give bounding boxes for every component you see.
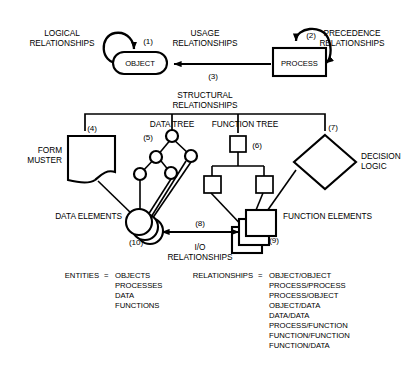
io-relationships-label: I/O RELATIONSHIPS xyxy=(167,242,233,262)
svg-text:MUSTER: MUSTER xyxy=(27,155,62,165)
svg-text:(6): (6) xyxy=(252,141,262,150)
structural-relationships-title: STRUCTURAL RELATIONSHIPS xyxy=(172,90,238,110)
svg-text:(10): (10) xyxy=(129,238,144,247)
svg-text:(3): (3) xyxy=(208,72,218,81)
form-muster-label: FORM MUSTER xyxy=(27,145,62,165)
svg-text:RELATIONSHIPS: RELATIONSHIPS xyxy=(172,38,238,48)
svg-text:I/O: I/O xyxy=(195,242,207,252)
svg-text:OBJECT/OBJECT: OBJECT/OBJECT xyxy=(269,271,331,280)
form-muster-shape xyxy=(68,136,115,183)
data-tree-node xyxy=(134,168,146,180)
function-tree: (6) xyxy=(204,136,273,193)
decision-logic-label: DECISION LOGIC xyxy=(361,151,401,171)
svg-text:PROCESS: PROCESS xyxy=(281,59,318,68)
svg-text:(8): (8) xyxy=(195,219,205,228)
decision-logic-diamond xyxy=(294,135,356,189)
legend-relationships: RELATIONSHIPS = OBJECT/OBJECT PROCESS/PR… xyxy=(193,271,350,350)
function-element-square-front xyxy=(246,210,276,236)
svg-text:RELATIONSHIPS: RELATIONSHIPS xyxy=(172,100,238,110)
svg-text:(5): (5) xyxy=(143,133,153,142)
svg-text:DATA/DATA: DATA/DATA xyxy=(269,311,310,320)
svg-text:DATA TREE: DATA TREE xyxy=(150,119,195,129)
svg-text:FORM: FORM xyxy=(38,145,62,155)
svg-text:OBJECTS: OBJECTS xyxy=(115,271,150,280)
svg-text:(9): (9) xyxy=(269,236,279,245)
svg-text:(2): (2) xyxy=(306,31,316,40)
usage-relationships-label: USAGE RELATIONSHIPS xyxy=(172,28,238,48)
svg-text:ENTITIES: ENTITIES xyxy=(65,271,99,280)
svg-text:USAGE: USAGE xyxy=(191,28,220,38)
data-tree: (5) xyxy=(134,130,197,180)
svg-text:FUNCTION/FUNCTION: FUNCTION/FUNCTION xyxy=(269,331,350,340)
data-tree-root-node xyxy=(166,130,178,142)
svg-text:FUNCTION/DATA: FUNCTION/DATA xyxy=(269,341,330,350)
svg-text:STRUCTURAL: STRUCTURAL xyxy=(177,90,233,100)
svg-text:LOGIC: LOGIC xyxy=(361,161,387,171)
svg-text:PROCESS/OBJECT: PROCESS/OBJECT xyxy=(269,291,339,300)
svg-text:(4): (4) xyxy=(87,124,97,133)
svg-text:=: = xyxy=(258,271,263,280)
svg-text:(7): (7) xyxy=(328,123,338,132)
svg-text:DATA ELEMENTS: DATA ELEMENTS xyxy=(55,211,122,221)
legend-entities: ENTITIES = OBJECTS PROCESSES DATA FUNCTI… xyxy=(65,271,163,310)
function-tree-root-node xyxy=(230,136,246,152)
structural-bracket xyxy=(85,114,325,131)
diagram-canvas: LOGICAL RELATIONSHIPS USAGE RELATIONSHIP… xyxy=(0,0,410,381)
svg-text:FUNCTIONS: FUNCTIONS xyxy=(115,301,159,310)
svg-text:RELATIONSHIPS: RELATIONSHIPS xyxy=(29,38,95,48)
svg-text:RELATIONSHIPS: RELATIONSHIPS xyxy=(167,252,233,262)
svg-text:PROCESSES: PROCESSES xyxy=(115,281,162,290)
logical-relationships-label: LOGICAL RELATIONSHIPS xyxy=(29,28,95,48)
data-tree-node xyxy=(185,150,197,162)
svg-text:FUNCTION TREE: FUNCTION TREE xyxy=(212,119,279,129)
svg-text:DECISION: DECISION xyxy=(361,151,401,161)
entity-relationship-diagram: LOGICAL RELATIONSHIPS USAGE RELATIONSHIP… xyxy=(0,0,410,381)
svg-text:OBJECT: OBJECT xyxy=(125,59,155,68)
svg-text:OBJECT/DATA: OBJECT/DATA xyxy=(269,301,321,310)
function-tree-node xyxy=(256,176,273,193)
data-element-circle-front xyxy=(126,209,152,235)
svg-text:LOGICAL: LOGICAL xyxy=(44,28,80,38)
svg-text:PROCESS/FUNCTION: PROCESS/FUNCTION xyxy=(269,321,348,330)
svg-text:FUNCTION ELEMENTS: FUNCTION ELEMENTS xyxy=(283,211,373,221)
svg-text:PRECEDENCE: PRECEDENCE xyxy=(323,28,381,38)
svg-text:=: = xyxy=(104,271,109,280)
function-tree-node xyxy=(204,176,221,193)
svg-text:(1): (1) xyxy=(143,37,153,46)
svg-text:RELATIONSHIPS: RELATIONSHIPS xyxy=(193,271,253,280)
svg-text:DATA: DATA xyxy=(115,291,135,300)
data-tree-node xyxy=(150,151,162,163)
svg-text:PROCESS/PROCESS: PROCESS/PROCESS xyxy=(269,281,346,290)
